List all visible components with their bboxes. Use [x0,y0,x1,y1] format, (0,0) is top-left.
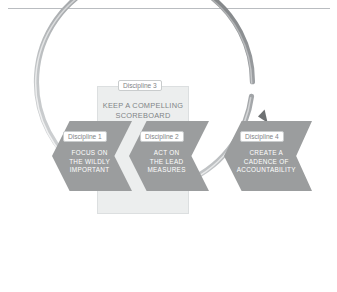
ring-arrowhead [258,110,268,123]
discipline-3-heading: KEEP A COMPELLING SCOREBOARD [98,101,188,121]
page-canvas: KEEP A COMPELLING SCOREBOARD FOCUS ON TH… [0,0,337,292]
four-disciplines-diagram: KEEP A COMPELLING SCOREBOARD FOCUS ON TH… [0,0,337,292]
